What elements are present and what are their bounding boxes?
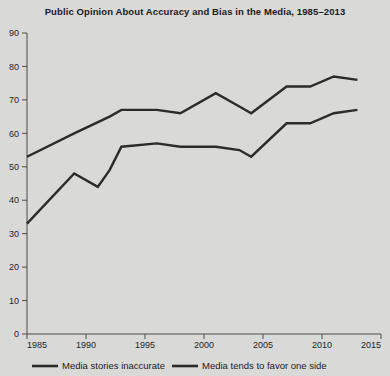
y-tick-label-0: 0 bbox=[14, 329, 19, 339]
series-line-media-stories-inaccurate bbox=[27, 110, 357, 224]
y-tick-label-90: 90 bbox=[9, 28, 19, 38]
y-tick-label-80: 80 bbox=[9, 62, 19, 72]
chart-legend: Media stories inaccurate Media tends to … bbox=[32, 360, 327, 371]
line-chart-plot: 0102030405060708090 19851990199520002005… bbox=[0, 0, 390, 376]
data-series-layer bbox=[27, 76, 357, 223]
series-line-media-tends-to-favor-one-side bbox=[27, 76, 357, 156]
legend-label-media-tends-to-favor-one-side: Media tends to favor one side bbox=[202, 360, 327, 371]
x-tick-label-2015: 2015 bbox=[361, 340, 381, 350]
x-axis-ticks bbox=[27, 334, 381, 339]
y-tick-label-50: 50 bbox=[9, 162, 19, 172]
y-tick-label-20: 20 bbox=[9, 262, 19, 272]
chart-container: Public Opinion About Accuracy and Bias i… bbox=[0, 0, 390, 376]
x-tick-label-1995: 1995 bbox=[135, 340, 155, 350]
y-tick-label-60: 60 bbox=[9, 129, 19, 139]
x-tick-label-1990: 1990 bbox=[76, 340, 96, 350]
y-tick-label-70: 70 bbox=[9, 95, 19, 105]
y-tick-label-10: 10 bbox=[9, 296, 19, 306]
x-tick-label-2010: 2010 bbox=[312, 340, 332, 350]
y-axis-tick-labels: 0102030405060708090 bbox=[9, 28, 19, 339]
y-tick-label-30: 30 bbox=[9, 229, 19, 239]
x-axis-tick-labels: 1985199019952000200520102015 bbox=[27, 340, 381, 350]
legend-label-media-stories-inaccurate: Media stories inaccurate bbox=[62, 360, 165, 371]
x-tick-label-2000: 2000 bbox=[194, 340, 214, 350]
y-axis-ticks bbox=[22, 33, 27, 334]
y-tick-label-40: 40 bbox=[9, 195, 19, 205]
x-tick-label-1985: 1985 bbox=[27, 340, 47, 350]
x-tick-label-2005: 2005 bbox=[253, 340, 273, 350]
